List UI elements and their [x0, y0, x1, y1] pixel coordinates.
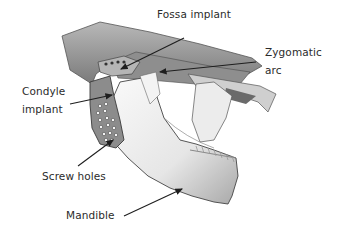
- label-condyle-implant-line2: implant: [22, 102, 63, 117]
- label-screw-holes: Screw holes: [42, 169, 106, 184]
- label-zygomatic-arc-line1: Zygomatic: [265, 45, 322, 60]
- mandible-implant-diagram: Fossa implant Zygomatic arc Condyle impl…: [0, 0, 352, 235]
- arrow-screw-holes: [78, 140, 113, 166]
- label-fossa-implant: Fossa implant: [157, 7, 231, 22]
- mandible-illustration: [0, 0, 352, 235]
- label-mandible: Mandible: [66, 208, 115, 223]
- label-condyle-implant-line1: Condyle: [22, 84, 65, 99]
- arrow-mandible: [124, 189, 182, 216]
- mandible-bone: [104, 72, 238, 204]
- label-zygomatic-arc-line2: arc: [265, 63, 282, 78]
